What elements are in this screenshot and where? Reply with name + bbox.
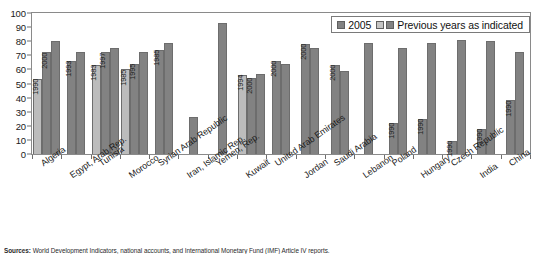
legend-item-2005: 2005 (337, 19, 371, 31)
bar (51, 41, 60, 154)
bar-year-label: 2000 (40, 52, 48, 68)
legend-label-2005: 2005 (348, 19, 371, 31)
bar-year-label: 1990 (31, 79, 39, 95)
bar-group: 2000 (266, 13, 295, 154)
legend-swatch-dark-icon (386, 21, 394, 29)
bar (256, 74, 265, 154)
bar-year-label: 2000 (299, 44, 307, 60)
bar-group: 1990 (413, 13, 442, 154)
bar-year-label: 1993 (65, 61, 73, 77)
bar-year-label: 1990 (416, 119, 424, 135)
x-axis-labels: AlgeriaEgypt, Arab Rep.TunisiaMoroccoSyr… (0, 158, 536, 238)
bar (457, 40, 466, 154)
bar (398, 48, 407, 154)
bar (281, 64, 290, 154)
bar: 1990 (506, 100, 515, 154)
source-note-text: World Development Indicators, national a… (31, 247, 330, 254)
bar-group: 19902000 (32, 13, 61, 154)
source-note: Sources: World Development Indicators, n… (4, 247, 536, 254)
bar-group: 1993 (61, 13, 90, 154)
bar: 1985 (155, 50, 164, 154)
bar-year-label: 2000 (270, 61, 278, 77)
bar (515, 52, 524, 154)
bar-year-label: 1997 (99, 52, 107, 68)
bar-year-label: 1994 (236, 75, 244, 91)
bar-year-label: 1995 (128, 64, 136, 80)
bar: 2000 (42, 52, 51, 154)
bar: 1990 (33, 79, 42, 154)
bar-year-label: 2000 (245, 78, 253, 94)
bar-year-label: 1985 (119, 69, 127, 85)
bar: 1983 (92, 65, 101, 154)
chart-legend: 2005 Previous years as indicated (331, 16, 530, 33)
bar-year-label: 1985 (153, 50, 161, 66)
chart-figure: 0102030405060708090100 19902000199319831… (0, 0, 536, 256)
bar: 2000 (272, 61, 281, 154)
bar-group: 1990 (384, 13, 413, 154)
bar-year-label: 1990 (504, 100, 512, 116)
bar: 2000 (331, 65, 340, 154)
bar-group: 1985 (149, 13, 178, 154)
y-tick-label: 10 (16, 134, 26, 145)
y-tick-label: 80 (16, 36, 26, 47)
bar-groups: 1990200019931983199719851995198519942000… (32, 13, 530, 154)
bar: 1993 (67, 61, 76, 154)
bar: 1995 (130, 64, 139, 154)
y-tick-label: 50 (16, 78, 26, 89)
legend-item-previous: Previous years as indicated (376, 19, 523, 31)
bar (139, 52, 148, 154)
bar (427, 43, 436, 154)
y-tick-label: 60 (16, 64, 26, 75)
y-tick-label: 100 (10, 8, 26, 19)
y-tick-label: 40 (16, 92, 26, 103)
bar (164, 43, 173, 154)
bar-year-label: 1983 (90, 65, 98, 81)
y-tick-label: 90 (16, 22, 26, 33)
bar: 1997 (101, 52, 110, 154)
bar-year-label: 1990 (387, 123, 395, 139)
bar (218, 23, 227, 154)
bar-group: 1990 (442, 13, 471, 154)
legend-swatch-2005-icon (337, 21, 345, 29)
x-axis-category-label: Jordan (302, 157, 330, 181)
legend-swatch-previous-icon (376, 21, 394, 29)
y-tick-label: 20 (16, 120, 26, 131)
bar-group: 2000 (325, 13, 354, 154)
y-axis: 0102030405060708090100 (0, 12, 31, 155)
bar: 1990 (418, 119, 427, 154)
bar (76, 52, 85, 154)
source-note-prefix: Sources: (4, 247, 31, 254)
legend-label-previous: Previous years as indicated (397, 19, 523, 31)
legend-swatch-light-icon (376, 21, 384, 29)
y-tick-label: 30 (16, 106, 26, 117)
bar-group: 19831997 (91, 13, 120, 154)
x-axis-category-label: Kuwait (244, 157, 271, 180)
bar: 1990 (448, 141, 457, 154)
bar-year-label: 2000 (329, 65, 337, 81)
y-tick-label: 70 (16, 50, 26, 61)
bar-group: 19851995 (120, 13, 149, 154)
x-axis-category-label: India (478, 161, 499, 180)
bar: 1990 (389, 123, 398, 154)
